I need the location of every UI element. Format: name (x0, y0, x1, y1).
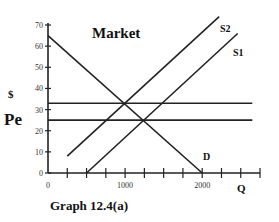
x-tick-label: 2000 (194, 181, 210, 190)
y-tick-label: 70 (35, 21, 43, 30)
y-tick-label: 60 (35, 42, 43, 51)
pe-label: Pe (4, 110, 22, 129)
x-tick-label: 1000 (117, 181, 133, 190)
y-tick-label: 40 (35, 84, 43, 93)
curves (48, 17, 238, 173)
x-tick-label: 0 (46, 181, 50, 190)
s2-label: S2 (220, 23, 231, 34)
horizontal-price-lines (48, 103, 252, 120)
y-tick-label: 20 (35, 127, 43, 136)
chart-title: Market (92, 25, 140, 41)
x-ticks: 010002000 (46, 168, 260, 190)
y-axis-label: $ (8, 88, 14, 100)
market-chart: 010203040506070 010002000 Market $ Pe S1… (0, 0, 279, 222)
y-tick-label: 10 (35, 148, 43, 157)
graph-caption: Graph 12.4(a) (50, 198, 128, 213)
y-tick-label: 30 (35, 106, 43, 115)
curve-s2 (67, 17, 219, 157)
x-axis-label: Q (237, 182, 246, 194)
y-tick-label: 0 (39, 169, 43, 178)
axes (48, 23, 260, 173)
s1-label: S1 (233, 47, 244, 58)
y-tick-label: 50 (35, 63, 43, 72)
d-label: D (203, 151, 210, 162)
